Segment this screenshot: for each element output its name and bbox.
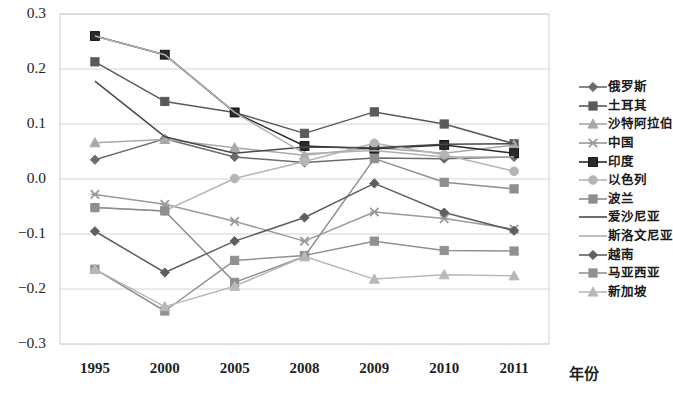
data-point-marker [589,269,597,277]
data-point-marker [300,142,309,151]
data-point-marker [370,108,378,116]
legend-label: 以色列 [608,172,647,188]
legend-label: 爱沙尼亚 [608,209,660,225]
legend-label: 马亚西亚 [608,265,660,281]
data-point-marker [440,246,448,254]
legend-marker-icon [578,172,608,188]
series-group [90,252,519,311]
data-point-marker [510,149,519,158]
data-point-marker [91,58,99,66]
legend-item-0[interactable]: 俄罗斯 [578,78,666,97]
data-point-marker [230,174,239,183]
legend-marker-icon [578,284,608,300]
series-line [95,257,514,307]
data-point-marker [91,204,99,212]
series-group [90,179,518,277]
data-point-marker [231,256,239,264]
chart-legend: 俄罗斯土耳其沙特阿拉伯中国印度以色列波兰爱沙尼亚斯洛文尼亚越南马亚西亚新加坡 [578,78,666,301]
legend-label: 沙特阿拉伯 [608,116,673,132]
legend-item-1[interactable]: 土耳其 [578,97,666,116]
data-point-marker [370,237,378,245]
legend-marker-icon [578,265,608,281]
legend-label: 印度 [608,154,634,170]
data-point-marker [588,83,597,92]
data-point-marker [300,237,308,245]
data-point-marker [440,120,448,128]
legend-label: 斯洛文尼亚 [608,228,673,244]
data-point-marker [589,157,598,166]
legend-item-4[interactable]: 印度 [578,152,666,171]
legend-marker-icon [578,79,608,95]
legend-marker-icon [578,209,608,225]
data-point-marker [440,151,449,160]
legend-item-5[interactable]: 以色列 [578,171,666,190]
legend-item-9[interactable]: 越南 [578,245,666,264]
data-point-marker [440,178,448,186]
data-point-marker [589,139,597,147]
data-point-marker [161,207,169,215]
legend-item-6[interactable]: 波兰 [578,190,666,209]
series-group [91,237,518,315]
legend-label: 中国 [608,135,634,151]
data-point-marker [589,176,598,185]
legend-marker-icon [578,191,608,207]
data-point-marker [300,129,308,137]
data-point-marker [370,155,378,163]
data-point-marker [589,102,597,110]
legend-label: 新加坡 [608,284,647,300]
series-group [91,58,518,148]
legend-item-7[interactable]: 爱沙尼亚 [578,208,666,227]
series-line [95,36,514,157]
legend-item-2[interactable]: 沙特阿拉伯 [578,115,666,134]
legend-marker-icon [578,116,608,132]
data-point-marker [370,208,378,216]
data-point-marker [230,237,239,246]
legend-marker-icon [578,135,608,151]
data-point-marker [370,139,379,148]
data-point-marker [510,185,518,193]
legend-item-8[interactable]: 斯洛文尼亚 [578,227,666,246]
legend-label: 俄罗斯 [608,79,647,95]
series-group [95,36,514,157]
data-point-marker [588,250,597,259]
data-point-marker [300,157,309,166]
legend-label: 土耳其 [608,98,647,114]
legend-label: 越南 [608,247,634,263]
legend-marker-icon [578,154,608,170]
data-point-marker [230,217,238,225]
legend-marker-icon [578,247,608,263]
legend-item-3[interactable]: 中国 [578,134,666,153]
data-point-marker [370,179,379,188]
legend-item-11[interactable]: 新加坡 [578,283,666,302]
legend-label: 波兰 [608,191,634,207]
data-point-marker [160,268,169,277]
data-point-marker [90,155,99,164]
legend-marker-icon [578,98,608,114]
data-point-marker [91,190,99,198]
data-point-marker [510,167,519,176]
legend-marker-icon [578,228,608,244]
data-point-marker [300,213,309,222]
data-point-marker [161,97,169,105]
data-point-marker [589,195,597,203]
data-point-marker [510,247,518,255]
legend-item-10[interactable]: 马亚西亚 [578,264,666,283]
x-axis-title: 年份 [569,362,599,383]
series-group [91,32,519,158]
